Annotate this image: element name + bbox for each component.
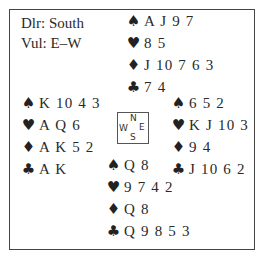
west-clubs: ♣ A K (20, 158, 101, 180)
north-spades: ♠ A J 9 7 (125, 10, 214, 32)
east-hearts: ♥ K J 10 3 (170, 114, 249, 136)
south-clubs: ♣ Q 9 8 5 3 (105, 220, 191, 242)
diamond-icon: ♦ (125, 54, 142, 76)
deal-info: Dlr: South Vul: E–W (21, 13, 84, 53)
south-clubs-cards: Q 9 8 5 3 (122, 220, 191, 242)
west-diamonds-cards: A K 5 2 (37, 136, 95, 158)
compass-box: N W E S (117, 112, 149, 144)
east-hearts-cards: K J 10 3 (187, 114, 249, 136)
compass-west: W (119, 124, 128, 133)
club-icon: ♣ (20, 158, 37, 180)
north-hearts-cards: 8 5 (142, 32, 166, 54)
south-spades-cards: Q 8 (122, 154, 150, 176)
east-spades: ♠ 6 5 2 (170, 92, 249, 114)
north-hand: ♠ A J 9 7 ♥ 8 5 ♦ J 10 7 6 3 ♣ 7 4 (125, 10, 214, 98)
west-spades: ♠ K 10 4 3 (20, 92, 101, 114)
heart-icon: ♥ (125, 32, 142, 54)
heart-icon: ♥ (20, 114, 37, 136)
compass-south: S (130, 133, 136, 142)
dealer-label: Dlr: South (21, 13, 84, 33)
spade-icon: ♠ (105, 154, 122, 176)
north-spades-cards: A J 9 7 (142, 10, 195, 32)
spade-icon: ♠ (20, 92, 37, 114)
west-hearts-cards: A Q 6 (37, 114, 81, 136)
diamond-icon: ♦ (105, 198, 122, 220)
east-clubs-cards: J 10 6 2 (187, 158, 246, 180)
heart-icon: ♥ (170, 114, 187, 136)
vulnerability-label: Vul: E–W (21, 33, 84, 53)
north-diamonds: ♦ J 10 7 6 3 (125, 54, 214, 76)
compass-east: E (139, 123, 145, 132)
east-spades-cards: 6 5 2 (187, 92, 225, 114)
west-clubs-cards: A K (37, 158, 67, 180)
south-spades: ♠ Q 8 (105, 154, 191, 176)
heart-icon: ♥ (105, 176, 122, 198)
south-diamonds: ♦ Q 8 (105, 198, 191, 220)
club-icon: ♣ (105, 220, 122, 242)
west-hand: ♠ K 10 4 3 ♥ A Q 6 ♦ A K 5 2 ♣ A K (20, 92, 101, 180)
south-hand: ♠ Q 8 ♥ 9 7 4 2 ♦ Q 8 ♣ Q 9 8 5 3 (105, 154, 191, 242)
south-hearts-cards: 9 7 4 2 (122, 176, 174, 198)
north-clubs-cards: 7 4 (142, 76, 166, 98)
north-diamonds-cards: J 10 7 6 3 (142, 54, 214, 76)
north-hearts: ♥ 8 5 (125, 32, 214, 54)
east-diamonds-cards: 9 4 (187, 136, 211, 158)
spade-icon: ♠ (170, 92, 187, 114)
west-diamonds: ♦ A K 5 2 (20, 136, 101, 158)
club-icon: ♣ (125, 76, 142, 98)
diamond-icon: ♦ (20, 136, 37, 158)
spade-icon: ♠ (125, 10, 142, 32)
south-hearts: ♥ 9 7 4 2 (105, 176, 191, 198)
west-spades-cards: K 10 4 3 (37, 92, 101, 114)
south-diamonds-cards: Q 8 (122, 198, 150, 220)
compass-north: N (130, 114, 137, 123)
west-hearts: ♥ A Q 6 (20, 114, 101, 136)
